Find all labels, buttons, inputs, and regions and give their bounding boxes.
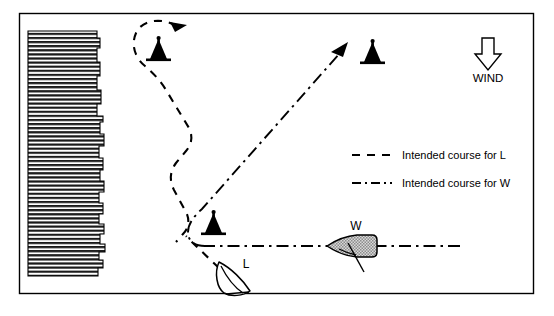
diagram-canvas: L W WIND Intended course for L Intended … (0, 0, 554, 316)
legend-label-W: Intended course for W (402, 177, 511, 189)
sailing-diagram-svg: L W WIND Intended course for L Intended … (0, 0, 554, 316)
boat-L-label: L (243, 257, 250, 271)
boat-W-label: W (350, 219, 362, 233)
legend-label-L: Intended course for L (402, 149, 506, 161)
hatched-shoreline (28, 31, 105, 276)
wind-label: WIND (473, 72, 504, 84)
